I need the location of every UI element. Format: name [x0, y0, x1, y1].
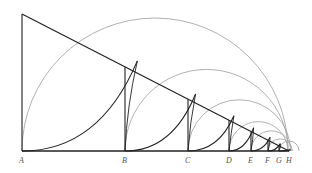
point-label-f: F [265, 156, 270, 165]
point-label-c: C [185, 156, 190, 165]
point-label-h: H [286, 156, 292, 165]
point-label-g: G [276, 156, 282, 165]
point-label-d: D [226, 156, 232, 165]
diagram-canvas [0, 0, 312, 173]
curve [125, 94, 196, 151]
geometric-diagram: ABCDEFGH [0, 0, 312, 173]
curve [188, 116, 234, 151]
point-label-a: A [19, 156, 24, 165]
arc [22, 18, 288, 151]
hypotenuse-line [22, 14, 289, 151]
arc [125, 69, 288, 151]
point-label-e: E [248, 156, 253, 165]
point-label-b: B [122, 156, 127, 165]
arc [251, 131, 291, 151]
curve [22, 61, 137, 151]
